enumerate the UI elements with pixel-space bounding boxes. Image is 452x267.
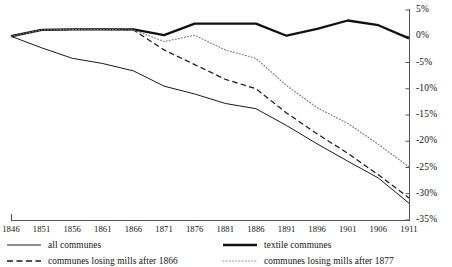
legend-swatch-solid-thin-icon (6, 240, 42, 250)
chart-figure: 5%0%-5%-10%-15%-20%-25%-30%-35% 18461851… (0, 0, 452, 267)
x-tick-label: 1861 (87, 224, 119, 234)
y-tick-label: -15% (416, 109, 437, 119)
legend-label-communes-losing-mills-after-1877: communes losing mills after 1877 (264, 256, 394, 266)
legend-item-all-communes: all communes (6, 238, 101, 251)
legend-item-communes-losing-mills-after-1866: communes losing mills after 1866 (6, 254, 178, 267)
x-tick-label: 1871 (148, 224, 180, 234)
series-layer (11, 21, 409, 204)
x-tick-label: 1866 (117, 224, 149, 234)
x-tick-label: 1851 (26, 224, 58, 234)
y-tick-label: -25% (416, 162, 437, 172)
x-tick-label: 1876 (179, 224, 211, 234)
x-tick-label: 1906 (362, 224, 394, 234)
x-tick-label: 1881 (209, 224, 241, 234)
y-tick-label: -30% (416, 188, 437, 198)
x-tick-label: 1886 (240, 224, 272, 234)
chart-legend: all communes textile communes communes l… (0, 236, 452, 267)
y-tick-label: 5% (416, 4, 429, 14)
legend-item-communes-losing-mills-after-1877: communes losing mills after 1877 (222, 254, 394, 267)
y-tick-label: -20% (416, 135, 437, 145)
series-line-communes-losing-mills-after-1877 (11, 29, 409, 167)
x-tick-label: 1891 (271, 224, 303, 234)
legend-label-all-communes: all communes (48, 240, 101, 250)
y-tick-label: -5% (416, 57, 432, 67)
y-tick-label: -10% (416, 83, 437, 93)
legend-item-textile-communes: textile communes (222, 238, 331, 251)
x-tick-label: 1846 (0, 224, 27, 234)
x-tick-label: 1911 (393, 224, 425, 234)
legend-swatch-dotted-icon (222, 256, 258, 266)
x-tick-label: 1856 (56, 224, 88, 234)
y-tick-label: 0% (416, 30, 429, 40)
legend-label-communes-losing-mills-after-1866: communes losing mills after 1866 (48, 256, 178, 266)
legend-swatch-solid-thick-icon (222, 240, 258, 250)
axis-lines (11, 9, 410, 221)
y-tick-label: -35% (416, 214, 437, 224)
legend-swatch-dashed-icon (6, 256, 42, 266)
x-tick-label: 1901 (332, 224, 364, 234)
series-line-communes-losing-mills-after-1866 (11, 29, 409, 198)
x-tick-label: 1896 (301, 224, 333, 234)
y-tick-marks (406, 10, 410, 220)
legend-label-textile-communes: textile communes (264, 240, 331, 250)
series-line-all-communes (11, 36, 409, 203)
